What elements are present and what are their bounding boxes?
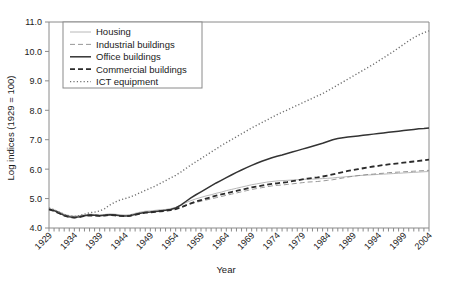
x-tick-label: 1979 <box>286 230 307 251</box>
legend-label: Office buildings <box>96 51 161 62</box>
legend-label: Commercial buildings <box>96 64 187 75</box>
x-tick-label: 1954 <box>159 230 180 251</box>
x-axis-title: Year <box>216 264 235 275</box>
x-tick-label: 1959 <box>185 230 206 251</box>
chart-legend: HousingIndustrial buildingsOffice buildi… <box>63 22 202 88</box>
y-axis-ticks <box>45 22 49 228</box>
legend-label: Housing <box>96 26 131 37</box>
y-tick-label: 4.0 <box>29 223 42 233</box>
x-tick-label: 1969 <box>235 230 256 251</box>
series-line-commercial-buildings <box>49 160 429 218</box>
y-axis-title: Log indices (1929 = 100) <box>5 76 16 181</box>
x-tick-label: 1989 <box>337 230 358 251</box>
series-line-housing <box>49 172 429 217</box>
y-tick-label: 7.0 <box>29 135 42 145</box>
x-tick-label: 1934 <box>58 230 79 251</box>
series-line-industrial-buildings <box>49 170 429 217</box>
x-tick-label: 1994 <box>362 230 383 251</box>
x-tick-label: 1939 <box>83 230 104 251</box>
x-tick-label: 1949 <box>134 230 155 251</box>
x-axis-ticks <box>49 228 429 232</box>
y-tick-label: 8.0 <box>29 106 42 116</box>
y-tick-label: 5.0 <box>29 194 42 204</box>
legend-label: ICT equipment <box>96 76 158 87</box>
x-axis-tick-labels: 1929193419391944194919541959196419691974… <box>33 230 434 251</box>
y-tick-label: 11.0 <box>25 17 42 27</box>
x-tick-label: 1929 <box>33 230 54 251</box>
chart-container: 4.05.06.07.08.09.010.011.0 1929193419391… <box>0 0 459 285</box>
y-tick-label: 6.0 <box>29 165 42 175</box>
series-line-office-buildings <box>49 128 429 217</box>
x-tick-label: 1999 <box>387 230 408 251</box>
legend-label: Industrial buildings <box>96 39 175 50</box>
y-tick-label: 10.0 <box>24 47 42 57</box>
x-tick-label: 1944 <box>109 230 130 251</box>
y-axis-tick-labels: 4.05.06.07.08.09.010.011.0 <box>24 17 42 233</box>
line-chart: 4.05.06.07.08.09.010.011.0 1929193419391… <box>0 0 459 285</box>
x-tick-label: 1974 <box>261 230 282 251</box>
y-tick-label: 9.0 <box>29 76 42 86</box>
x-tick-label: 1964 <box>210 230 231 251</box>
x-tick-label: 2004 <box>413 230 434 251</box>
x-tick-label: 1984 <box>311 230 332 251</box>
